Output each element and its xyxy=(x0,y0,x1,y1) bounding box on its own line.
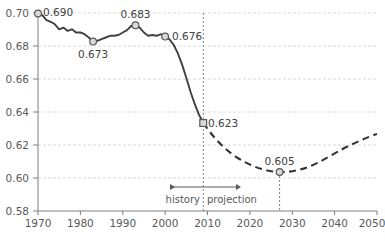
label-0.683: 0.683 xyxy=(120,8,150,20)
y-tick-label-0.58: 0.58 xyxy=(6,205,29,217)
x-tick-label-2010: 2010 xyxy=(194,217,221,229)
x-tick-label-1970: 1970 xyxy=(25,217,52,229)
label-0.690: 0.690 xyxy=(43,6,73,18)
y-tick-label-0.70: 0.70 xyxy=(6,7,29,19)
region-annotation: history projection xyxy=(166,187,257,205)
y-tick-label-0.62: 0.62 xyxy=(6,139,29,151)
line-chart: 0.70 0.68 0.66 0.64 0.62 0.60 0.58 1970 … xyxy=(0,0,385,241)
x-tick-label-1990: 1990 xyxy=(109,217,136,229)
projection-label: projection xyxy=(207,194,257,205)
x-tick-label-2000: 2000 xyxy=(152,217,179,229)
x-tick-label-1980: 1980 xyxy=(67,217,94,229)
y-tick-label-0.68: 0.68 xyxy=(6,40,29,52)
marker-2000[interactable] xyxy=(162,33,169,40)
x-axis: 1970 1980 1990 2000 2010 2020 2030 2040 … xyxy=(25,211,385,229)
data-point-labels: 0.690 0.673 0.683 0.676 0.623 0.605 xyxy=(43,6,295,167)
marker-1993[interactable] xyxy=(132,22,139,29)
y-axis: 0.70 0.68 0.66 0.64 0.62 0.60 0.58 xyxy=(6,7,38,217)
label-0.676: 0.676 xyxy=(172,30,202,42)
x-tick-label-2040: 2040 xyxy=(321,217,348,229)
x-tick-label-2050: 2050 xyxy=(359,217,385,229)
history-label: history xyxy=(166,194,200,205)
chart-canvas: 0.70 0.68 0.66 0.64 0.62 0.60 0.58 1970 … xyxy=(0,0,385,241)
x-tick-label-2020: 2020 xyxy=(237,217,264,229)
y-tick-label-0.64: 0.64 xyxy=(6,106,30,118)
y-tick-label-0.66: 0.66 xyxy=(6,73,30,85)
label-0.605: 0.605 xyxy=(265,155,295,167)
marker-2027[interactable] xyxy=(276,169,283,176)
y-tick-label-0.60: 0.60 xyxy=(6,172,29,184)
marker-1983[interactable] xyxy=(90,38,97,45)
marker-1970[interactable] xyxy=(35,10,42,17)
x-tick-label-2030: 2030 xyxy=(279,217,306,229)
marker-2009[interactable] xyxy=(200,120,207,127)
label-0.673: 0.673 xyxy=(78,48,108,60)
label-0.623: 0.623 xyxy=(208,117,238,129)
